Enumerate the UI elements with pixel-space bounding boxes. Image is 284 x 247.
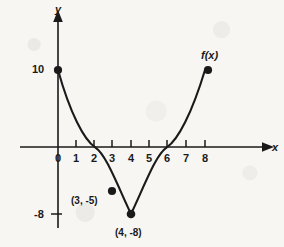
function-label: f(x) [201, 50, 218, 61]
figure-caption [0, 240, 284, 247]
annotation-point-3: (3, -5) [71, 196, 98, 206]
x-tick-label-1: 1 [73, 153, 79, 164]
y-axis-label: y [55, 4, 61, 15]
x-tick-label-5: 5 [146, 153, 152, 164]
point-8-10 [204, 66, 212, 74]
x-tick-label-8: 8 [202, 153, 208, 164]
point-4-neg8-vertex [127, 210, 136, 219]
x-tick-label-3: 3 [109, 153, 115, 164]
x-axis-ticks [76, 140, 205, 147]
point-3-neg5 [108, 187, 116, 195]
x-axis-label: x [272, 142, 278, 153]
point-0-10 [54, 66, 62, 74]
graph-figure: x y 10 -8 0 1 2 3 4 5 6 7 8 f(x) (3, -5)… [0, 0, 284, 247]
x-tick-label-7: 7 [183, 153, 189, 164]
x-tick-label-0: 0 [55, 153, 61, 164]
annotation-point-4: (4, -8) [115, 228, 142, 238]
x-tick-label-4: 4 [128, 153, 134, 164]
x-tick-label-6: 6 [164, 153, 170, 164]
x-tick-label-2: 2 [91, 153, 97, 164]
y-tick-label-10: 10 [32, 64, 44, 75]
y-tick-label-neg8: -8 [34, 209, 44, 220]
